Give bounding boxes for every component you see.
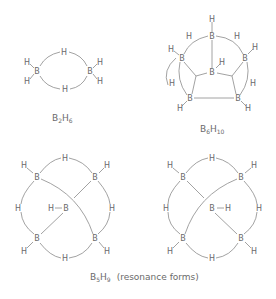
hydrogen-atom: H <box>209 154 215 163</box>
hydrogen-atom: H <box>24 77 30 86</box>
boron-atom: B <box>92 234 98 243</box>
hydrogen-atom: H <box>21 161 27 170</box>
hydrogen-atom: H <box>256 204 262 213</box>
boron-atom: B <box>180 234 186 243</box>
hydrogen-atom: H <box>186 32 192 41</box>
boron-atom: B <box>242 54 248 63</box>
hydrogen-atom: H <box>167 247 173 256</box>
hydrogen-atom: H <box>177 104 183 113</box>
hydrogen-atom: H <box>168 45 174 54</box>
hydrogen-atom: H <box>250 79 256 88</box>
boron-atom: B <box>87 67 93 76</box>
hydrogen-atom: H <box>109 204 115 213</box>
hydrogen-atom: H <box>209 15 215 24</box>
hydrogen-atom: H <box>252 43 258 52</box>
hydrogen-atom: H <box>219 58 225 67</box>
boron-atom: B <box>209 32 215 41</box>
hydrogen-atom: H <box>225 204 231 213</box>
boron-atom: B <box>238 173 244 182</box>
hydrogen-atom: H <box>209 254 215 263</box>
boron-atom: B <box>34 67 40 76</box>
hydrogen-atom: H <box>61 48 67 57</box>
hydrogen-atom: H <box>62 85 68 94</box>
boron-atom: B <box>92 173 98 182</box>
boron-atom: B <box>34 173 40 182</box>
hydrogen-atom: H <box>48 204 54 213</box>
boron-atom: B <box>187 94 193 103</box>
hydrogen-atom: H <box>97 58 103 67</box>
hydrogen-atom: H <box>62 154 68 163</box>
hydrogen-atom: H <box>15 204 21 213</box>
hydrogen-atom: H <box>24 58 30 67</box>
label-b2h6: B2H6 <box>52 113 73 124</box>
label-b5h9: B5H9(resonance forms) <box>90 272 199 283</box>
hydrogen-atom: H <box>104 161 110 170</box>
label-b6h10: B6H10 <box>200 124 225 135</box>
hydrogen-atom: H <box>251 247 257 256</box>
hydrogen-atom: H <box>234 32 240 41</box>
hydrogen-atom: H <box>163 204 169 213</box>
hydrogen-atom: H <box>245 104 251 113</box>
boron-atom: B <box>34 234 40 243</box>
boron-atom: B <box>235 94 241 103</box>
hydrogen-atom: H <box>97 77 103 86</box>
hydrogen-atom: H <box>169 79 175 88</box>
hydrogen-atom: H <box>251 161 257 170</box>
boron-atom: B <box>180 173 186 182</box>
hydrogen-atom: H <box>62 254 68 263</box>
hydrogen-atom: H <box>167 161 173 170</box>
borane-structures-diagram: BBHHHHHHHBHHHBHBBHHHBBHHHHBHBHHHBBHBHHHH… <box>0 0 276 299</box>
hydrogen-atom: H <box>21 247 27 256</box>
boron-atom: B <box>63 204 69 213</box>
boron-atom: B <box>209 204 215 213</box>
atom-labels: BBHHHHHHHBHHHBHBBHHHBBHHHHBHBHHHBBHBHHHH… <box>15 15 262 263</box>
boron-atom: B <box>179 54 185 63</box>
boron-atom: B <box>238 234 244 243</box>
boron-atom: B <box>209 68 215 77</box>
hydrogen-atom: H <box>104 247 110 256</box>
